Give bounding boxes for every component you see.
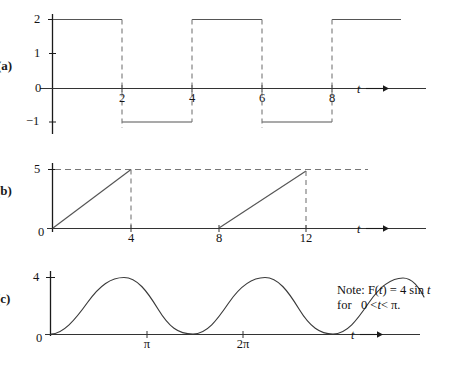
note-var-t-2: t [427, 283, 430, 297]
panel-b-ylabel-0: 0 [38, 225, 44, 240]
panel-b-xlabel-8: 8 [211, 231, 227, 246]
panel-c-xlabel-pi: π [139, 337, 155, 352]
panel-a-plot [40, 14, 426, 134]
panel-label-a: (a) [0, 58, 12, 74]
panel-a-ylabel-neg1: −1 [26, 114, 39, 129]
panel-b-waveform-ramps [53, 170, 306, 229]
panel-b-x-axis-label: t [357, 222, 360, 237]
panel-a-ylabel-0: 0 [35, 81, 41, 96]
panel-b-xlabel-4: 4 [123, 231, 139, 246]
note-for: for [337, 298, 352, 312]
panel-b-x-axis-var: t [357, 222, 360, 236]
panel-label-c: (c) [0, 291, 10, 307]
panel-c-x-axis-var: t [351, 328, 354, 342]
note-prefix: Note: F( [337, 283, 379, 297]
panel-c-ylabel-4: 4 [33, 270, 39, 285]
note-ineq-a: 0 < [361, 298, 377, 312]
panel-a-xlabel-2: 2 [114, 91, 130, 106]
panel-b-xlabel-12: 12 [295, 231, 317, 246]
note-suffix: ) = 4 sin [383, 283, 428, 297]
note-ineq-b: < π. [381, 298, 401, 312]
panel-b-plot [47, 163, 426, 232]
panel-c-t-arrow-head [377, 331, 383, 337]
panel-a-ylabel-2: 2 [34, 12, 40, 27]
panel-a-x-axis-var: t [357, 82, 360, 96]
panel-a-xlabel-6: 6 [254, 91, 270, 106]
panel-b-waveform-drops [131, 170, 306, 229]
panel-c-x-axis-label: t [351, 328, 354, 343]
panel-a-x-axis-label: t [357, 82, 360, 97]
panel-c-note-line-2: for 0 <t< π. [337, 298, 431, 313]
panel-a-ylabel-1: 1 [34, 46, 40, 61]
panel-c-note: Note: F(t) = 4 sin t for 0 <t< π. [337, 283, 431, 313]
panel-a-t-arrow-head [383, 85, 389, 91]
panel-a-waveform-levels [53, 20, 401, 123]
panel-label-b: (b) [0, 183, 12, 199]
panel-c-ylabel-0: 0 [36, 331, 42, 346]
panel-c-note-line-1: Note: F(t) = 4 sin t [337, 283, 431, 298]
panel-a-waveform-transitions [122, 20, 332, 129]
panel-a-xlabel-4: 4 [184, 91, 200, 106]
panel-b-ylabel-5: 5 [34, 162, 40, 177]
panel-b-t-arrow-head [383, 225, 389, 231]
panel-a-xlabel-8: 8 [324, 91, 340, 106]
panel-c-xlabel-2pi: 2π [232, 337, 254, 352]
